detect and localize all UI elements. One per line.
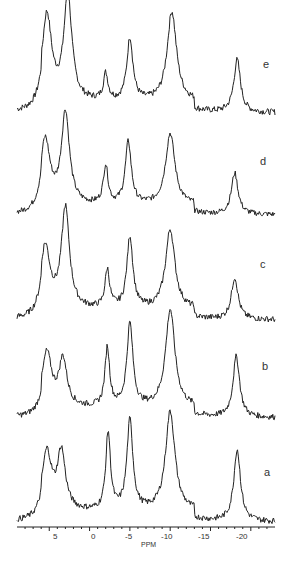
trace-label-b: b xyxy=(262,360,268,372)
spectrum-trace-e xyxy=(17,0,275,115)
tick-label-5: 5 xyxy=(53,532,57,541)
spectrum-trace-b xyxy=(17,309,275,419)
trace-label-a: a xyxy=(264,466,270,478)
x-axis-title: PPM xyxy=(141,541,156,548)
tick-label-minus20: -20 xyxy=(236,532,248,541)
tick-label-0: 0 xyxy=(91,532,95,541)
spectrum-trace-c xyxy=(17,203,275,322)
trace-label-e: e xyxy=(263,58,269,70)
trace-label-d: d xyxy=(260,155,266,167)
tick-label-minus5: -5 xyxy=(125,532,132,541)
tick-label-minus10: -10 xyxy=(161,532,173,541)
trace-label-c: c xyxy=(260,258,266,270)
x-axis xyxy=(17,527,275,531)
tick-label-minus15: -15 xyxy=(198,532,210,541)
nmr-stacked-spectra xyxy=(0,0,286,562)
spectrum-trace-d xyxy=(17,110,275,216)
spectrum-trace-a xyxy=(17,410,275,524)
